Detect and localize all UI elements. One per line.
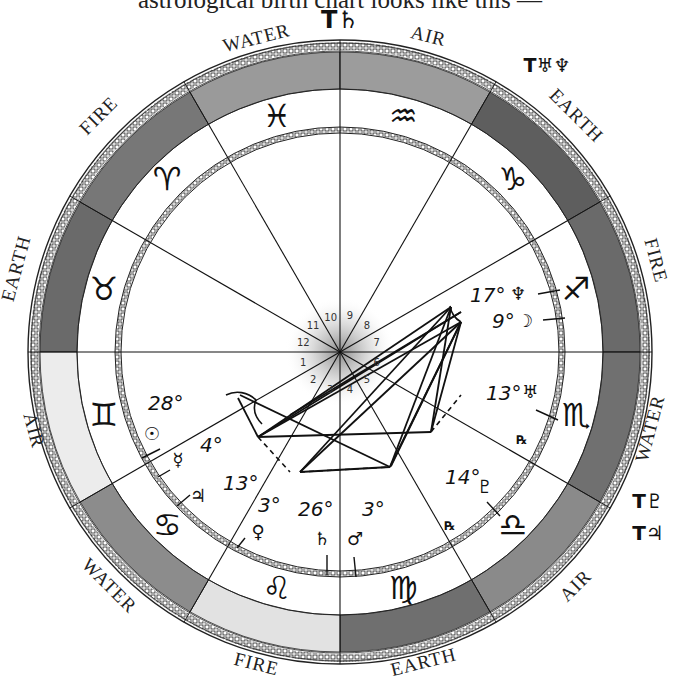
mercury-glyph-icon: ☿ [172,449,183,470]
taurus-glyph-icon: ♉ [89,270,118,308]
saturn-glyph-icon: ♄ [314,528,330,549]
venus-degree: 3° [258,493,281,517]
element-label-fire: FIRE [640,236,672,285]
house-number-2: 2 [310,374,316,385]
libra-glyph-icon: ♎ [499,506,528,544]
moon-degree: 9° [492,309,515,333]
planet-venus: 3°♀ [237,493,281,548]
transit-label: T♅♆ [523,54,570,76]
element-label-fire: FIRE [75,92,122,139]
uranus-glyph-icon: ♅ [522,381,538,402]
saturn-degree: 26° [298,497,333,521]
jupiter-degree: 13° [223,471,258,495]
transit-label: T♇ [632,489,664,513]
house-number-12: 12 [297,337,310,348]
planet-mercury: 4°☿ [158,433,223,477]
planet-pluto: 14°♇ [445,465,500,516]
mars-glyph-icon: ♂ [347,528,363,549]
uranus-degree: 13° [486,381,521,405]
cusp-line [340,221,568,353]
house-number-9: 9 [347,310,353,321]
leo-glyph-icon: ♌ [262,569,291,607]
capricorn-glyph-icon: ♑ [499,160,528,198]
transit-label: T♃ [632,521,664,545]
neptune-glyph-icon: ♆ [510,283,526,304]
house-number-6: 6 [374,357,380,368]
aspect-line [390,307,451,467]
pluto-degree: 14° [445,465,480,489]
sun-degree: 28° [148,391,183,415]
house-number-11: 11 [307,320,320,331]
cusp-line [112,221,340,353]
house-number-10: 10 [324,312,337,323]
mars-degree: 3° [362,497,385,521]
uranus-retrograde-glyph-icon: ℞ [517,433,528,447]
moon-glyph-icon: ☽ [517,310,533,331]
planet-saturn: 26°♄ [298,497,333,575]
element-label-air: AIR [409,21,449,50]
venus-position-tick [237,538,245,548]
planet-sun: 28°☉ [142,391,183,458]
sun-glyph-icon: ☉ [144,423,160,444]
house-number-3: 3 [327,384,333,395]
aquarius-glyph-icon: ♒ [389,97,418,135]
planet-uranus: 13°♅ [486,381,558,420]
jupiter-glyph-icon: ♃ [190,485,206,506]
gemini-glyph-icon: ♊ [89,396,118,434]
house-number-4: 4 [347,384,353,395]
aspect-line [391,322,461,466]
neptune-degree: 17° [470,283,505,307]
aries-glyph-icon: ♈ [153,160,182,198]
pluto-retrograde-glyph-icon: ℞ [445,519,456,533]
aspect-line-dashed [300,467,390,472]
mercury-degree: 4° [200,433,223,457]
element-label-earth: EARTH [0,233,35,303]
venus-glyph-icon: ♀ [251,521,264,542]
mercury-position-tick [158,470,170,477]
house-number-7: 7 [374,337,380,348]
cusp-line [112,352,340,484]
planet-uranus-retrograde: ℞ [517,433,528,447]
planet-moon: 9°☽ [492,309,565,333]
sagittarius-glyph-icon: ♐ [562,270,591,308]
house-number-8: 8 [364,320,370,331]
house-number-1: 1 [300,357,306,368]
scorpio-glyph-icon: ♏ [562,396,591,434]
cusp-line [209,124,341,352]
planet-neptune: 17°♆ [470,283,560,307]
pisces-glyph-icon: ♓ [262,97,291,135]
birth-chart-wheel: ♉♈♓♒♑♐♏♎♍♌♋♊ WATERAIREARTHFIREWATERAIREA… [0,0,680,695]
house-number-5: 5 [364,374,370,385]
pluto-glyph-icon: ♇ [477,476,493,497]
planet-jupiter: 13°♃ [177,471,258,506]
planet-pluto-retrograde: ℞ [445,519,456,533]
virgo-glyph-icon: ♍ [389,569,418,607]
planet-mars: 3°♂ [347,497,385,577]
cancer-glyph-icon: ♋ [153,506,182,544]
transit-label: T♄ [321,6,359,34]
